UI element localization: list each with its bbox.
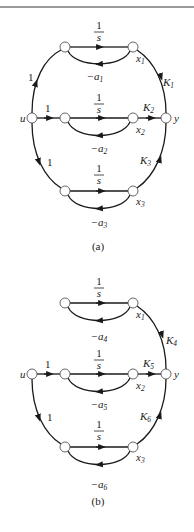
svg-text:1: 1 — [96, 275, 102, 287]
svg-text:−a4: −a4 — [91, 330, 108, 344]
node — [60, 369, 70, 379]
svg-text:y: y — [173, 368, 179, 380]
svg-text:K1: K1 — [162, 76, 174, 90]
node — [60, 42, 70, 52]
svg-text:1: 1 — [96, 162, 102, 174]
node-y — [161, 113, 171, 123]
node — [60, 113, 70, 123]
svg-text:x3: x3 — [135, 195, 145, 209]
svg-text:u: u — [20, 368, 26, 380]
svg-text:−a1: −a1 — [87, 70, 104, 84]
svg-text:1: 1 — [45, 358, 51, 370]
caption-a: (a) — [92, 240, 105, 253]
node-u — [27, 369, 37, 379]
svg-text:1: 1 — [47, 411, 53, 423]
node — [60, 442, 70, 452]
svg-text:1: 1 — [28, 71, 34, 83]
node-u — [27, 113, 37, 123]
svg-text:s: s — [97, 174, 101, 186]
svg-text:s: s — [97, 103, 101, 115]
svg-text:−a6: −a6 — [91, 478, 108, 492]
svg-text:1: 1 — [96, 418, 102, 430]
node — [60, 298, 70, 308]
svg-text:1: 1 — [47, 156, 53, 168]
svg-text:K4: K4 — [165, 334, 177, 348]
node-x2 — [128, 113, 138, 123]
svg-text:−a2: −a2 — [91, 142, 108, 156]
svg-text:s: s — [97, 359, 101, 371]
svg-text:−a3: −a3 — [91, 216, 108, 230]
svg-text:K6: K6 — [139, 410, 151, 424]
svg-text:1: 1 — [96, 347, 102, 359]
svg-text:s: s — [97, 31, 101, 43]
svg-text:−a5: −a5 — [91, 398, 108, 412]
node-x1 — [128, 298, 138, 308]
svg-text:K2: K2 — [142, 101, 154, 115]
figure-b: 1 s x1 −a4 K4 1 s 1 K5 u y x2 −a5 1 K6 1… — [20, 275, 179, 508]
svg-text:x3: x3 — [135, 451, 145, 465]
node-x2 — [128, 369, 138, 379]
svg-text:s: s — [97, 287, 101, 299]
svg-text:u: u — [20, 112, 26, 124]
signal-flow-graphs: 1 s x1 −a1 1 K1 1 s 1 K2 u y x2 −a2 1 K3… — [0, 0, 194, 532]
svg-text:1: 1 — [45, 102, 51, 114]
svg-text:K3: K3 — [139, 154, 151, 168]
node-y — [161, 369, 171, 379]
svg-text:x2: x2 — [135, 123, 145, 137]
figure-a: 1 s x1 −a1 1 K1 1 s 1 K2 u y x2 −a2 1 K3… — [20, 19, 179, 253]
svg-text:s: s — [97, 430, 101, 442]
node-x1 — [128, 42, 138, 52]
svg-text:1: 1 — [96, 19, 102, 31]
svg-text:x2: x2 — [135, 379, 145, 393]
svg-text:K5: K5 — [142, 357, 154, 371]
node — [60, 186, 70, 196]
caption-b: (b) — [92, 495, 105, 508]
svg-text:y: y — [173, 112, 179, 124]
svg-text:1: 1 — [96, 91, 102, 103]
